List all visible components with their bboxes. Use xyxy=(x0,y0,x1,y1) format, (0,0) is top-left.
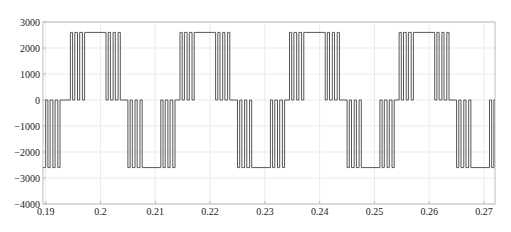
x-tick-label: 0.27 xyxy=(475,206,493,217)
x-tick-label: 0.26 xyxy=(421,206,439,217)
x-tick-label: 0.19 xyxy=(37,206,55,217)
pwm-voltage-chart: 3000200010000−1000−2000−3000−4000 0.190.… xyxy=(0,0,511,232)
x-axis-ticks: 0.190.20.210.220.230.240.250.260.27 xyxy=(37,201,493,217)
x-tick-label: 0.21 xyxy=(147,206,165,217)
x-tick-label: 0.2 xyxy=(94,206,107,217)
y-tick-label: 0 xyxy=(35,95,40,106)
y-tick-label: −2000 xyxy=(14,147,40,158)
y-tick-label: 1000 xyxy=(20,69,40,80)
y-tick-label: 3000 xyxy=(20,17,40,28)
y-tick-label: −1000 xyxy=(14,121,40,132)
x-tick-label: 0.23 xyxy=(256,206,274,217)
x-tick-label: 0.24 xyxy=(311,206,329,217)
y-axis-ticks: 3000200010000−1000−2000−3000−4000 xyxy=(14,17,46,210)
x-tick-label: 0.25 xyxy=(366,206,384,217)
x-tick-label: 0.22 xyxy=(201,206,219,217)
y-tick-label: 2000 xyxy=(20,43,40,54)
y-tick-label: −3000 xyxy=(14,173,40,184)
